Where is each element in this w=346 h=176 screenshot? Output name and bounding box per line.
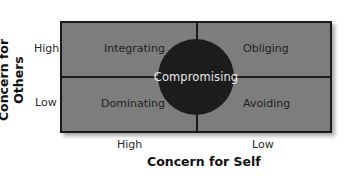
x-tick-low: Low (252, 138, 274, 151)
y-tick-low: Low (35, 96, 57, 109)
x-tick-high: High (117, 138, 142, 151)
y-tick-high: High (34, 42, 59, 55)
quadrant-avoiding: Avoiding (243, 97, 290, 110)
quadrant-dominating: Dominating (101, 97, 165, 110)
center-label: Compromising (154, 70, 238, 84)
x-axis-title: Concern for Self (147, 154, 261, 169)
compromising-circle: Compromising (158, 39, 234, 115)
quadrant-integrating: Integrating (104, 42, 165, 55)
y-axis-title: Concern for Others (0, 25, 26, 135)
quadrant-obliging: Obliging (243, 42, 289, 55)
